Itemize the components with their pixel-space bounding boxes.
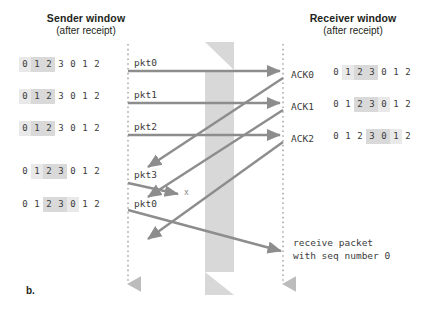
propagation-band [205,42,234,295]
arrow-pkt0-retransmit [128,210,281,251]
sender-window-3-cell-0: 0 [19,164,31,179]
sender-window-1-cell-4: 0 [67,89,79,104]
sender-window-4-cell-6: 2 [91,197,103,212]
sender-window-4-cell-3: 3 [55,197,67,212]
receiver-window-1-cell-6: 2 [402,97,414,112]
sender-window-row: 0123012 [19,121,103,136]
receiver-window-2-cell-5: 1 [390,129,402,144]
receiver-window-1-cell-2: 2 [354,97,366,112]
sender-window-1-cell-2: 2 [43,89,55,104]
sender-window-3-cell-6: 2 [91,164,103,179]
receiver-window-2-cell-2: 2 [354,129,366,144]
sender-window-row: 0123012 [19,57,103,72]
sender-window-4-cell-1: 1 [31,197,43,212]
sender-window-4-cell-4: 0 [67,197,79,212]
receiver-window-1-cell-0: 0 [330,97,342,112]
packet-label-pkt0: pkt0 [134,57,157,68]
figure-label: b. [26,285,35,296]
receiver-window-0-cell-0: 0 [330,65,342,80]
receive-note-line-1: receive packet [293,236,390,249]
sender-window-0-cell-5: 1 [79,57,91,72]
sender-window-3-cell-5: 1 [79,164,91,179]
sender-window-2-cell-1: 1 [31,121,43,136]
sender-window-1-cell-0: 0 [19,89,31,104]
sender-window-3-cell-2: 2 [43,164,55,179]
packet-label-pkt2: pkt2 [134,121,157,132]
sender-window-1-cell-6: 2 [91,89,103,104]
sender-window-1-cell-3: 3 [55,89,67,104]
sender-window-4-cell-5: 1 [79,197,91,212]
sender-window-0-cell-0: 0 [19,57,31,72]
receiver-window-row: 0123012 [330,65,414,80]
receiver-window-row: 0123012 [330,129,414,144]
sender-window-row: 0123012 [19,164,103,179]
ack-label-0: ACK0 [291,69,314,80]
receiver-window-0-cell-3: 3 [366,65,378,80]
sender-window-row: 0123012 [19,197,103,212]
receiver-window-0-cell-6: 2 [402,65,414,80]
sender-window-0-cell-3: 3 [55,57,67,72]
receiver-window-1-cell-1: 1 [342,97,354,112]
sender-window-3-cell-4: 0 [67,164,79,179]
receiver-window-row: 0123012 [330,97,414,112]
sender-window-0-cell-4: 0 [67,57,79,72]
sender-window-row: 0123012 [19,89,103,104]
sender-window-0-cell-1: 1 [31,57,43,72]
sender-window-1-cell-1: 1 [31,89,43,104]
receiver-window-0-cell-1: 1 [342,65,354,80]
sender-window-2-cell-5: 1 [79,121,91,136]
receiver-window-2-cell-1: 1 [342,129,354,144]
sender-window-3-cell-1: 1 [31,164,43,179]
packet-label-pkt0-retransmit: pkt0 [134,198,157,209]
sender-window-0-cell-6: 2 [91,57,103,72]
receive-note-line-2: with seq number 0 [293,249,390,262]
arrow-pkt3-lost [128,183,178,194]
receiver-window-1-cell-4: 0 [378,97,390,112]
sender-window-2-cell-3: 3 [55,121,67,136]
receiver-window-2-cell-0: 0 [330,129,342,144]
receiver-window-2-cell-3: 3 [366,129,378,144]
sender-window-1-cell-5: 1 [79,89,91,104]
receiver-window-0-cell-2: 2 [354,65,366,80]
receiver-window-1-cell-3: 3 [366,97,378,112]
sender-window-2-cell-4: 0 [67,121,79,136]
sender-window-4-cell-0: 0 [19,197,31,212]
receiver-window-0-cell-5: 1 [390,65,402,80]
receiver-window-2-cell-4: 0 [378,129,390,144]
receive-packet-note: receive packet with seq number 0 [293,236,390,262]
sender-window-3-cell-3: 3 [55,164,67,179]
packet-loss-x-icon: x [184,188,189,197]
sender-window-0-cell-2: 2 [43,57,55,72]
sender-window-2-cell-2: 2 [43,121,55,136]
packet-label-pkt3: pkt3 [134,169,157,180]
sender-window-2-cell-0: 0 [19,121,31,136]
ack-label-2: ACK2 [291,133,314,144]
ack-label-1: ACK1 [291,101,314,112]
sender-window-2-cell-6: 2 [91,121,103,136]
sender-window-4-cell-2: 2 [43,197,55,212]
receiver-window-2-cell-6: 2 [402,129,414,144]
protocol-diagram [0,0,427,312]
receiver-window-1-cell-5: 1 [390,97,402,112]
packet-label-pkt1: pkt1 [134,89,157,100]
receiver-window-0-cell-4: 0 [378,65,390,80]
